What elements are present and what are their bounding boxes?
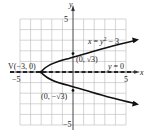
curve-arrow-top-icon — [132, 37, 139, 43]
x-axis-label: x — [139, 68, 144, 77]
x-tick-5: 5 — [124, 75, 128, 84]
y-axis-label: y — [68, 0, 73, 9]
x-tick-neg5: −5 — [12, 75, 21, 84]
vertex-label: V(−3, 0) — [8, 62, 36, 71]
point-bottom-label: (0, −√3) — [41, 92, 68, 101]
y-tick-5: 5 — [64, 15, 68, 24]
parabola-chart: y x 5 −5 −5 5 V(−3, 0) (0, √3) (0, −√3) … — [0, 0, 145, 136]
y-tick-neg5: −5 — [63, 120, 72, 129]
y-axis — [71, 5, 75, 130]
point-top — [72, 52, 75, 55]
point-top-label: (0, √3) — [76, 55, 98, 64]
vertex-point — [40, 70, 43, 73]
axis-symmetry-label: y = 0 — [107, 62, 124, 71]
curve-arrow-bottom-icon — [132, 101, 139, 107]
curve-equation-label: x = y2 − 3 — [87, 36, 119, 46]
point-bottom — [72, 89, 75, 92]
